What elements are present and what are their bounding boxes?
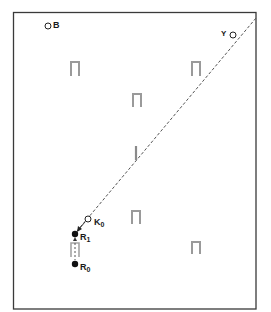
point-y-circle [230, 32, 236, 38]
staple-marker-1 [71, 62, 79, 76]
dashed-trajectory-line [77, 18, 256, 231]
arrow-up-to-r1 [73, 237, 77, 241]
label-k0-sub: 0 [101, 221, 105, 228]
label-r1: R1 [80, 232, 91, 243]
staple-marker-2 [192, 62, 200, 76]
label-y: Y [221, 29, 227, 38]
arrow-k0-to-r1 [77, 222, 85, 232]
staple-marker-4 [132, 211, 140, 224]
point-b-circle [45, 23, 51, 29]
staple-marker-6 [71, 243, 79, 257]
point-r1-dot [72, 231, 78, 237]
label-b: B [53, 20, 60, 30]
label-r0-sub: 0 [87, 266, 91, 273]
diagram-canvas: B Y K0 R1 R0 [0, 0, 271, 312]
label-r0: R0 [80, 262, 91, 273]
frame-border [14, 13, 257, 310]
label-k0: K0 [94, 217, 105, 228]
point-k0-circle [85, 216, 91, 222]
label-r1-sub: 1 [87, 236, 91, 243]
staple-marker-5 [192, 242, 200, 254]
staple-marker-3 [133, 94, 141, 107]
point-r0-dot [72, 261, 78, 267]
